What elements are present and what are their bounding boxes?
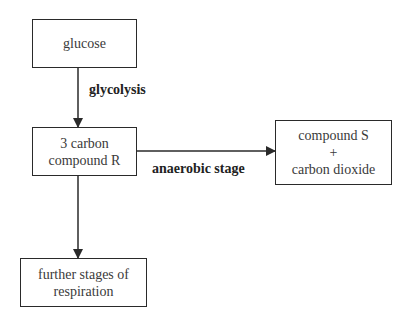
edge-label-glycolysis: glycolysis — [89, 82, 146, 98]
node-compound-s-line-1: compound S — [298, 127, 368, 144]
edge-label-anaerobic-stage: anaerobic stage — [152, 161, 245, 177]
node-glucose: glucose — [32, 19, 137, 68]
node-compound-s: compound S + carbon dioxide — [275, 120, 392, 185]
node-further-line-1: further stages of — [38, 266, 129, 283]
node-compound-r-line-1: 3 carbon — [60, 135, 109, 152]
node-further-stages: further stages of respiration — [20, 258, 147, 307]
node-further-line-2: respiration — [54, 283, 114, 300]
node-compound-r-line-2: compound R — [49, 152, 121, 169]
respiration-flowchart: glucose 3 carbon compound R compound S +… — [0, 0, 413, 326]
node-compound-r: 3 carbon compound R — [32, 127, 137, 176]
node-glucose-text: glucose — [63, 35, 106, 52]
node-compound-s-plus: + — [330, 144, 338, 161]
node-compound-s-line-3: carbon dioxide — [292, 161, 376, 178]
